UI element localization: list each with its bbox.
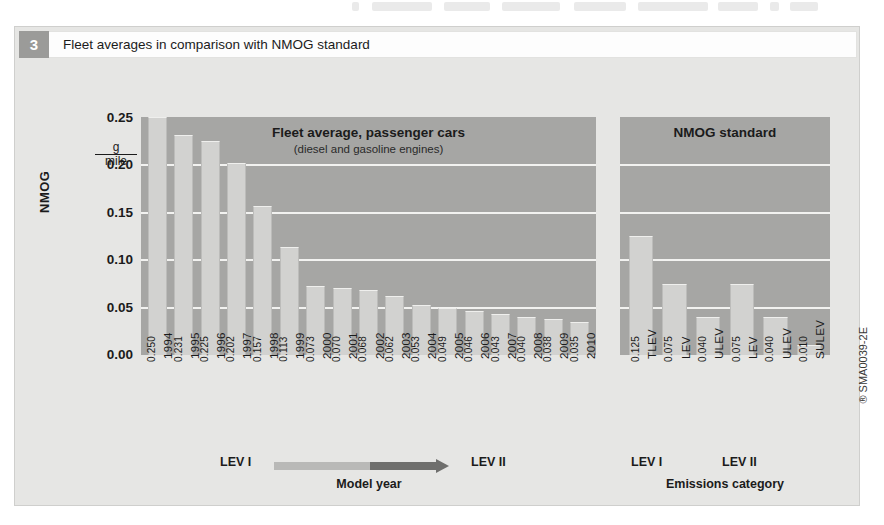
bar: 0.231 <box>174 135 193 355</box>
lev-start-label: LEV I <box>220 455 251 469</box>
lev-transition-arrow <box>274 459 459 473</box>
bar-value-label: 0.202 <box>225 336 236 362</box>
panel-fleet-average: Fleet average, passenger cars (diesel an… <box>141 117 596 355</box>
bar-value-label: 0.231 <box>173 336 184 362</box>
y-tick-label: 0.05 <box>79 300 133 315</box>
bar-value-label: 0.075 <box>663 336 674 362</box>
bar: 0.202 <box>227 163 246 355</box>
x-axis-label: 2002 <box>374 332 386 359</box>
x-axis-label: ULEV <box>781 328 793 359</box>
bar-value-label: 0.040 <box>764 336 775 362</box>
bar-value-label: 0.073 <box>305 336 316 362</box>
bar-value-label: 0.038 <box>542 336 553 362</box>
x-axis-label: 2006 <box>479 332 491 359</box>
x-axis-label: 1998 <box>268 332 280 359</box>
x-axis-label: 1995 <box>189 332 201 359</box>
page-scan-artifact <box>0 0 884 22</box>
x-axis-label: TLEV <box>646 329 658 359</box>
bar: 0.250 <box>148 117 167 355</box>
x-axis-label: 2008 <box>532 332 544 359</box>
y-tick-label: 0.15 <box>79 205 133 220</box>
bar-value-label: 0.040 <box>697 336 708 362</box>
source-code-label: ® SMA0039-2E <box>857 327 869 404</box>
bar-value-label: 0.075 <box>731 336 742 362</box>
figure-container: 3 Fleet averages in comparison with NMOG… <box>14 26 860 506</box>
figure-number-badge: 3 <box>19 31 49 58</box>
x-axis-label: 2010 <box>585 332 597 359</box>
arrow-segment-lev2 <box>370 462 438 470</box>
figure-caption-bar: 3 Fleet averages in comparison with NMOG… <box>19 31 857 58</box>
bar-value-label: 0.049 <box>437 336 448 362</box>
bar: 0.225 <box>201 141 220 355</box>
bar-value-label: 0.043 <box>490 336 501 362</box>
bar-group-fleet: 0.2500.2310.2250.2020.1570.1130.0730.070… <box>141 117 596 355</box>
x-axis-label: LEV <box>747 336 759 359</box>
bar-value-label: 0.125 <box>630 336 641 362</box>
y-axis-title: NMOG <box>37 171 52 213</box>
x-axis-label: 1997 <box>241 332 253 359</box>
x-axis-label: LEV <box>680 336 692 359</box>
copyright-icon: ® <box>857 396 869 404</box>
x-axis-label: 2005 <box>453 332 465 359</box>
right-group-label-lev2: LEV II <box>722 455 757 469</box>
panel-nmog-standard: NMOG standard 0.1250.0750.0400.0750.0400… <box>620 117 830 355</box>
x-axis-label: ULEV <box>713 328 725 359</box>
x-axis-caption-left: Model year <box>269 477 469 491</box>
y-tick-label: 0.20 <box>79 157 133 172</box>
bar-group-standard: 0.1250.0750.0400.0750.0400.010 <box>620 117 830 355</box>
x-axis-label: 2007 <box>506 332 518 359</box>
bar-value-label: 0.157 <box>252 336 263 362</box>
y-tick-label: 0.00 <box>79 347 133 362</box>
x-axis-label: 2009 <box>558 332 570 359</box>
y-axis-ticks: 0.25 0.20 0.15 0.10 0.05 0.00 <box>71 63 133 503</box>
bar-value-label: 0.068 <box>357 336 368 362</box>
plot-area: NMOG g mile 0.25 0.20 0.15 0.10 0.05 0.0… <box>19 63 857 503</box>
lev-end-label: LEV II <box>471 455 506 469</box>
x-axis-caption-right: Emissions category <box>620 477 830 491</box>
x-axis-label: 2001 <box>347 332 359 359</box>
arrow-head-icon <box>436 459 449 473</box>
right-group-label-lev1: LEV I <box>631 455 662 469</box>
x-axis-label: 1994 <box>162 332 174 359</box>
y-tick-label: 0.10 <box>79 252 133 267</box>
figure-caption-text: Fleet averages in comparison with NMOG s… <box>49 31 857 58</box>
x-axis-label: SULEV <box>814 320 826 359</box>
y-tick-label: 0.25 <box>79 110 133 125</box>
bar-value-label: 0.010 <box>798 336 809 362</box>
x-axis-label: 2004 <box>426 332 438 359</box>
bar-value-label: 0.250 <box>146 336 157 362</box>
x-axis-label: 2003 <box>400 332 412 359</box>
x-axis-label: 2000 <box>321 332 333 359</box>
x-axis-label: 1999 <box>294 332 306 359</box>
bar-value-label: 0.035 <box>569 336 580 362</box>
source-code-text: SMA0039-2E <box>857 327 869 392</box>
x-axis-label: 1996 <box>215 332 227 359</box>
arrow-segment-lev1 <box>274 462 370 470</box>
